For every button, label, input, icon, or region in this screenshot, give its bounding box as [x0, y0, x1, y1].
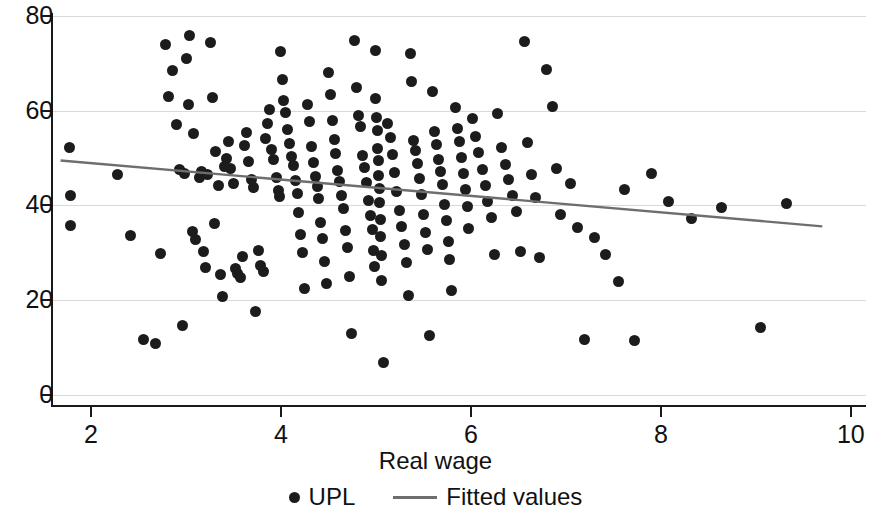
scatter-point: [374, 197, 385, 208]
scatter-point: [470, 131, 481, 142]
scatter-point: [408, 135, 419, 146]
scatter-point: [357, 150, 368, 161]
scatter-point: [315, 217, 326, 228]
scatter-point: [467, 113, 478, 124]
scatter-point: [372, 125, 383, 136]
scatter-point: [258, 266, 269, 277]
scatter-point: [403, 290, 414, 301]
fitted-line-layer: [0, 0, 871, 519]
scatter-point: [522, 137, 533, 148]
scatter-point: [299, 283, 310, 294]
scatter-point: [308, 157, 319, 168]
scatter-point: [391, 186, 402, 197]
x-tick-mark-10: [850, 406, 852, 417]
scatter-point: [184, 30, 195, 41]
scatter-point: [439, 199, 450, 210]
scatter-point: [579, 334, 590, 345]
scatter-point: [572, 222, 583, 233]
scatter-point: [290, 175, 301, 186]
scatter-point: [600, 249, 611, 260]
scatter-point: [361, 177, 372, 188]
scatter-point: [376, 250, 387, 261]
scatter-point: [268, 154, 279, 165]
scatter-point: [338, 203, 349, 214]
scatter-point: [375, 214, 386, 225]
scatter-point: [330, 148, 341, 159]
scatter-point: [202, 169, 213, 180]
scatter-point: [179, 168, 190, 179]
y-tick-label-wrap-40: 40: [0, 192, 53, 217]
scatter-point: [416, 189, 427, 200]
scatter-point: [374, 183, 385, 194]
y-tick-label-80: 80: [11, 3, 53, 28]
scatter-point: [387, 149, 398, 160]
scatter-point: [64, 142, 75, 153]
scatter-point: [288, 160, 299, 171]
scatter-point: [424, 330, 435, 341]
scatter-point: [346, 328, 357, 339]
scatter-point: [215, 269, 226, 280]
legend-label-upl: UPL: [309, 484, 356, 510]
scatter-point: [340, 225, 351, 236]
scatter-point: [541, 64, 552, 75]
y-tick-label-0: 0: [11, 382, 53, 407]
scatter-point: [422, 244, 433, 255]
scatter-point: [755, 322, 766, 333]
scatter-point: [385, 132, 396, 143]
scatter-point: [646, 168, 657, 179]
scatter-point: [150, 338, 161, 349]
scatter-point: [515, 246, 526, 257]
y-tick-label-20: 20: [11, 287, 53, 312]
scatter-point: [365, 210, 376, 221]
scatter-point: [406, 76, 417, 87]
scatter-point: [217, 291, 228, 302]
scatter-point: [370, 45, 381, 56]
scatter-point: [221, 153, 232, 164]
scatter-point: [210, 146, 221, 157]
scatter-point: [336, 190, 347, 201]
scatter-point: [207, 92, 218, 103]
x-tick-label-10: 10: [821, 420, 871, 448]
x-tick-label-8: 8: [631, 420, 691, 448]
x-tick-label-6: 6: [441, 420, 501, 448]
scatter-point: [456, 152, 467, 163]
scatter-point: [372, 143, 383, 154]
scatter-point: [454, 136, 465, 147]
y-tick-label-wrap-60: 60: [0, 98, 53, 123]
scatter-point: [167, 65, 178, 76]
scatter-chart-figure: 020406080 246810 Real wage UPL Fitted va…: [0, 0, 871, 519]
scatter-point: [355, 121, 366, 132]
scatter-point: [321, 278, 332, 289]
scatter-point: [209, 218, 220, 229]
scatter-point: [317, 233, 328, 244]
scatter-point: [237, 251, 248, 262]
scatter-point: [462, 201, 473, 212]
scatter-point: [65, 220, 76, 231]
scatter-point: [342, 242, 353, 253]
x-tick-mark-4: [280, 406, 282, 417]
scatter-point: [555, 209, 566, 220]
gridline-y-0: [52, 395, 866, 396]
scatter-point: [239, 140, 250, 151]
scatter-point: [253, 245, 264, 256]
scatter-point: [248, 182, 259, 193]
scatter-point: [503, 174, 514, 185]
scatter-point: [399, 239, 410, 250]
scatter-point: [160, 39, 171, 50]
scatter-point: [410, 145, 421, 156]
scatter-point: [373, 170, 384, 181]
scatter-point: [382, 118, 393, 129]
scatter-point: [306, 141, 317, 152]
scatter-point: [500, 159, 511, 170]
scatter-point: [480, 180, 491, 191]
scatter-point: [589, 232, 600, 243]
scatter-point: [629, 335, 640, 346]
scatter-point: [441, 215, 452, 226]
scatter-point: [243, 156, 254, 167]
scatter-point: [163, 91, 174, 102]
scatter-point: [460, 184, 471, 195]
scatter-point: [458, 168, 469, 179]
scatter-point: [446, 285, 457, 296]
y-tick-label-60: 60: [11, 98, 53, 123]
scatter-point: [177, 320, 188, 331]
